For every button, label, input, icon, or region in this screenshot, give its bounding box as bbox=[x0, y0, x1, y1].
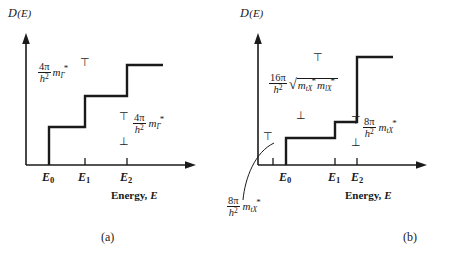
fraction-upper-a: 4π h2 bbox=[38, 61, 51, 84]
mass-symbol-callout-b: mtX* bbox=[243, 201, 262, 214]
radical-body-b: mtX*mlX* bbox=[297, 78, 338, 93]
extent-marker-bottom-lower-a: ⊥ bbox=[119, 136, 129, 147]
extent-marker-top-lower-a: ⊤ bbox=[119, 111, 129, 122]
y-axis-label-script-b: D bbox=[240, 6, 249, 20]
extent-marker-bottom-right-b: ⊥ bbox=[351, 137, 361, 148]
panel-b-graphic bbox=[225, 0, 450, 259]
fraction-denominator-callout-b: h2 bbox=[227, 206, 240, 218]
fraction-denominator-lower-a: h2 bbox=[133, 123, 146, 135]
panel-caption-a: (a) bbox=[101, 231, 114, 243]
x-tick-label-e2-b: E2 bbox=[351, 171, 363, 185]
y-axis-label-arg-b: (E) bbox=[249, 7, 263, 19]
extent-marker-top-upper-a: ⊤ bbox=[80, 57, 90, 68]
radical-glyph-b: √ bbox=[289, 77, 297, 92]
fraction-big-b: 16π h2 bbox=[269, 72, 287, 95]
fraction-numerator-callout-b: 8π bbox=[227, 195, 240, 206]
fraction-denominator-big-b: h2 bbox=[269, 83, 287, 95]
x-tick-label-e1-a: E1 bbox=[78, 171, 90, 185]
fraction-numerator-big-b: 16π bbox=[269, 72, 287, 83]
y-axis-arrowhead-a bbox=[22, 33, 30, 44]
x-tick-label-e2-a: E2 bbox=[120, 171, 132, 185]
panel-b: D(E) ⊤ ⊥ 16π h2 √ mtX*mlX* ⊤ ⊥ 8π h2 mtX… bbox=[225, 0, 450, 259]
fraction-lower-a: 4π h2 bbox=[133, 112, 146, 135]
fraction-denominator-upper-a: h2 bbox=[38, 72, 51, 84]
formula-first-step-callout-b: 8π h2 mtX* bbox=[227, 196, 262, 219]
formula-step-height-upper-a: 4π h2 mΓ* bbox=[38, 62, 69, 85]
mass-symbol-right-b: mtX* bbox=[379, 122, 398, 135]
mass-symbol-transverse-b: mtX* bbox=[298, 80, 317, 93]
formula-step-height-lower-a: 4π h2 mΓ* bbox=[133, 113, 165, 136]
x-axis-title-b: Energy, E bbox=[345, 190, 391, 201]
y-axis-label-a: D(E) bbox=[8, 8, 31, 20]
extent-marker-top-right-b: ⊤ bbox=[351, 115, 361, 126]
mass-symbol-upper-a: mΓ* bbox=[53, 67, 70, 80]
fraction-denominator-right-b: h2 bbox=[363, 127, 376, 139]
formula-small-step-height-right-b: 8π h2 mtX* bbox=[363, 117, 398, 140]
fraction-right-b: 8π h2 bbox=[363, 116, 376, 139]
y-axis-arrowhead-b bbox=[254, 33, 262, 44]
extent-marker-bottom-big-b: ⊥ bbox=[296, 110, 306, 121]
extent-marker-top-callout-b: ⊤ bbox=[263, 131, 273, 142]
x-tick-label-e0-a: E0 bbox=[42, 171, 54, 185]
y-axis-label-b: D(E) bbox=[240, 8, 263, 20]
mass-symbol-longitudinal-b: mlX* bbox=[317, 80, 336, 93]
y-axis-label-script-a: D bbox=[8, 6, 17, 20]
fraction-numerator-lower-a: 4π bbox=[133, 112, 146, 123]
radical-big-b: √ mtX*mlX* bbox=[289, 77, 338, 93]
panel-caption-b: (b) bbox=[403, 231, 417, 243]
x-axis-arrowhead-b bbox=[416, 161, 427, 169]
x-axis-arrowhead-a bbox=[185, 161, 196, 169]
fraction-numerator-right-b: 8π bbox=[363, 116, 376, 127]
mass-symbol-lower-a: mΓ* bbox=[149, 118, 166, 131]
x-tick-label-e0-b: E0 bbox=[279, 171, 291, 185]
panel-a-graphic bbox=[0, 0, 225, 259]
fraction-numerator-upper-a: 4π bbox=[38, 61, 51, 72]
extent-marker-top-big-b: ⊤ bbox=[313, 52, 323, 63]
panel-a: D(E) 4π h2 mΓ* ⊤ ⊤ ⊥ 4π h2 mΓ* E0 E1 E2 … bbox=[0, 0, 225, 259]
x-axis-title-a: Energy, E bbox=[111, 190, 157, 201]
y-axis-label-arg-a: (E) bbox=[17, 7, 31, 19]
formula-big-step-height-b: 16π h2 √ mtX*mlX* bbox=[269, 73, 338, 96]
fraction-callout-b: 8π h2 bbox=[227, 195, 240, 218]
x-tick-label-e1-b: E1 bbox=[328, 171, 340, 185]
density-of-states-figure: D(E) 4π h2 mΓ* ⊤ ⊤ ⊥ 4π h2 mΓ* E0 E1 E2 … bbox=[0, 0, 450, 259]
